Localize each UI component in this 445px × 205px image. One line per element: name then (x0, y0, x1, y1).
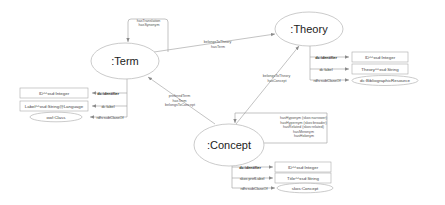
theory-properties: dc:identifier dc:label rdfs:subClassOf I… (310, 46, 418, 86)
theory-node-label: :Theory (290, 23, 328, 35)
theory-subclass-value: dc:BibliographicResource (360, 78, 410, 83)
concept-node: :Concept (194, 124, 264, 166)
concept-identifier-value: ID^^xsd:Integer (288, 165, 319, 170)
concept-self-edge-label: hasHyponym (skos:narrower) hasHypernym (… (280, 116, 328, 138)
concept-node-label: :Concept (207, 139, 251, 151)
concept-prop-subclass: rdfs:subClassOf (240, 187, 268, 191)
concept-theory-edge (236, 46, 299, 124)
concept-term-edge-label: preferedTerm hasTerm belongsToConcept (165, 94, 195, 107)
term-self-edge-label: hasTranslation hasSynonym (137, 19, 161, 28)
term-prop-label: dc:label (101, 105, 114, 109)
term-prop-subclass: rdfs:subClassOf (96, 116, 124, 120)
term-prop-identifier: dc:identifier (97, 92, 119, 96)
term-node-label: :Term (111, 55, 139, 67)
term-identifier-value: ID^^xsd:Integer (39, 91, 70, 96)
term-node: :Term (91, 43, 159, 79)
concept-preflabel-value: Title^^xsd:String (287, 176, 319, 181)
concept-properties: dc:identifier skos:prefLabel rdfs:subCla… (232, 162, 333, 193)
ontology-diagram: hasTranslation hasSynonym belongsToTheor… (0, 0, 445, 205)
theory-node: :Theory (275, 12, 343, 46)
theory-prop-subclass: rdfs:subClassOf (313, 79, 341, 83)
concept-prop-preflabel: skos:prefLabel (240, 177, 265, 181)
theory-identifier-value: ID^^xsd:Integer (365, 55, 396, 60)
theory-prop-label: dc:label (319, 68, 332, 72)
theory-prop-identifier: dc:identifier (315, 56, 337, 60)
concept-theory-edge-label: belongsToTheory hasConcept (263, 74, 292, 83)
concept-subclass-value: skos:Concept (292, 186, 319, 191)
concept-prop-identifier: dc:identifier (239, 166, 261, 170)
term-properties: dc:identifier dc:label rdfs:subClassOf I… (20, 79, 127, 122)
term-label-value: Label^^xsd:String@Language (25, 104, 84, 109)
theory-label-value: Theory^^xsd:String (361, 67, 399, 72)
term-subclass-value: owl:Class (47, 115, 67, 120)
